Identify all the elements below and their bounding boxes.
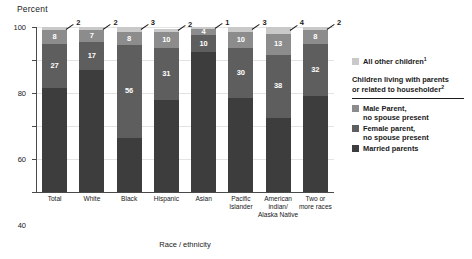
bar-segment[interactable] — [79, 70, 104, 192]
bar-segment[interactable] — [79, 30, 104, 42]
legend-label-all-other-children: All other children1 — [363, 57, 427, 66]
y-axis-title: Percent — [17, 4, 48, 14]
legend-heading-line-2: or related to householder — [352, 85, 441, 94]
bar-column[interactable]: 3282 — [303, 27, 328, 192]
y-axis-tick-label: 80 — [18, 89, 26, 98]
legend-swatch — [352, 105, 359, 112]
bar-segment[interactable] — [117, 45, 142, 137]
legend-label: Female parent,no spouse present — [363, 124, 429, 142]
chart-root: Percent 020406080100 2782177256833110210… — [0, 0, 472, 259]
bar-segment-callout-value: 3 — [262, 18, 266, 27]
bar-column[interactable]: 1041 — [191, 27, 216, 192]
bar-segment[interactable] — [42, 44, 67, 89]
y-axis-tick-label: 60 — [18, 155, 26, 164]
bar-segment[interactable] — [154, 29, 179, 32]
legend-superscript-2: 2 — [441, 83, 444, 89]
legend-superscript-1: 1 — [424, 56, 427, 62]
bar-column[interactable]: 5683 — [117, 27, 142, 192]
bar-segment[interactable] — [154, 48, 179, 99]
bar-segment[interactable] — [42, 27, 67, 30]
callout-leader-line — [215, 23, 223, 29]
bar-segment[interactable] — [228, 32, 253, 49]
bar-segment-callout-value: 2 — [337, 18, 341, 27]
bar-segment[interactable] — [191, 29, 216, 36]
bar-segment-callout-value: 1 — [225, 18, 229, 27]
bar-segment[interactable] — [191, 52, 216, 192]
plot-area: 020406080100 278217725683311021041301033… — [36, 27, 334, 192]
bar-column[interactable]: 30103 — [228, 27, 253, 192]
bar-segment-callout-value: 2 — [113, 18, 117, 27]
bar-column[interactable]: 2782 — [42, 27, 67, 192]
bar-series-group: 27821772568331102104130103381343282 — [36, 27, 334, 192]
x-axis-tick-label: Two ormore races — [290, 195, 340, 211]
bar-segment[interactable] — [303, 44, 328, 97]
legend-item: Married parents — [352, 144, 470, 153]
y-axis-tick-label: 40 — [18, 221, 26, 230]
callout-leader-line — [103, 24, 111, 30]
bar-segment[interactable] — [228, 98, 253, 192]
legend-item: Male Parent,no spouse present — [352, 104, 470, 122]
bar-segment[interactable] — [266, 34, 291, 55]
bar-segment[interactable] — [79, 27, 104, 30]
bar-segment[interactable] — [42, 88, 67, 192]
bar-segment[interactable] — [154, 32, 179, 49]
bar-segment[interactable] — [266, 55, 291, 118]
legend: All other children1 Children living with… — [352, 57, 470, 155]
legend-group-heading: Children living with parents or related … — [352, 75, 470, 94]
legend-item: Female parent,no spouse present — [352, 124, 470, 142]
bar-segment-callout-value: 3 — [151, 18, 155, 27]
bar-column[interactable]: 38134 — [266, 27, 291, 192]
bar-column[interactable]: 1772 — [79, 27, 104, 192]
bar-segment[interactable] — [303, 96, 328, 192]
bar-segment[interactable] — [266, 118, 291, 192]
legend-swatch — [352, 145, 359, 152]
x-axis-tick-labels: TotalWhiteBlackHispanicAsianPacificIslan… — [36, 195, 334, 229]
legend-label: Male Parent,no spouse present — [363, 104, 429, 122]
legend-swatch-all-other-children — [352, 58, 359, 65]
bar-segment[interactable] — [117, 32, 142, 45]
legend-entries: Male Parent,no spouse presentFemale pare… — [352, 104, 470, 153]
bar-segment-callout-value: 4 — [300, 18, 304, 27]
y-axis-tick-label: 100 — [13, 23, 26, 32]
bar-segment[interactable] — [117, 27, 142, 32]
callout-leader-line — [66, 24, 74, 30]
bar-segment[interactable] — [266, 27, 291, 34]
bar-segment[interactable] — [191, 27, 216, 29]
bar-segment[interactable] — [79, 42, 104, 70]
x-axis-title: Race / ethnicity — [36, 240, 334, 249]
y-axis-tick: 0 — [32, 192, 36, 193]
bar-segment[interactable] — [154, 100, 179, 192]
bar-segment[interactable] — [303, 30, 328, 43]
callout-leader-line — [178, 25, 186, 31]
x-axis-line — [36, 192, 334, 193]
bar-segment-callout-value: 2 — [76, 18, 80, 27]
bar-segment[interactable] — [191, 35, 216, 52]
bar-column[interactable]: 31102 — [154, 27, 179, 192]
bar-segment[interactable] — [117, 138, 142, 192]
legend-heading-line-1: Children living with parents — [352, 75, 449, 84]
bar-segment[interactable] — [42, 30, 67, 43]
legend-item-all-other-children: All other children1 — [352, 57, 470, 66]
legend-divider — [352, 98, 464, 99]
legend-label: Married parents — [363, 144, 418, 153]
bar-segment[interactable] — [228, 48, 253, 98]
bar-segment[interactable] — [303, 27, 328, 30]
bar-segment[interactable] — [228, 27, 253, 32]
legend-swatch — [352, 125, 359, 132]
callout-leader-line — [140, 24, 148, 30]
